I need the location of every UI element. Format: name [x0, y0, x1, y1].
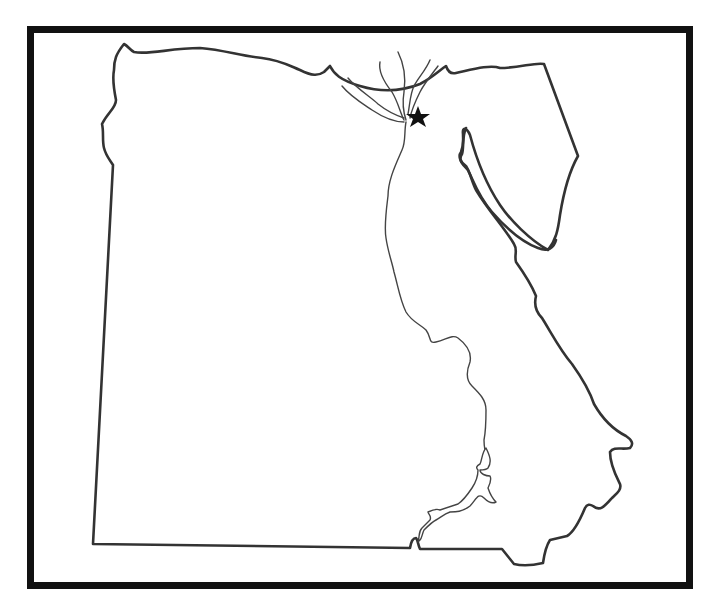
egypt-map — [0, 0, 719, 611]
lake-nasser — [418, 448, 496, 542]
egypt-mainland-border — [93, 44, 632, 565]
star-icon — [406, 106, 430, 127]
nile-delta-outer-west — [342, 86, 404, 122]
nile-river — [385, 122, 488, 462]
